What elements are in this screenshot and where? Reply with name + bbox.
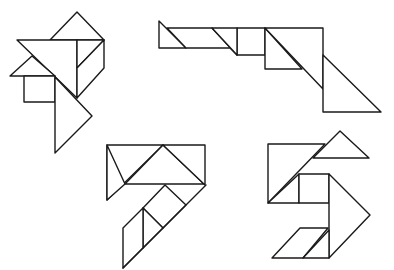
tangram-figure-top-right [159, 21, 381, 112]
tangram-piece-square [299, 174, 329, 203]
tangram-figure-bottom-left [107, 145, 206, 268]
tangram-piece-large-triangle-right [329, 174, 370, 258]
tangram-piece-square [237, 28, 265, 55]
tangram-figure-top-left [10, 12, 104, 153]
tangram-piece-small-triangle-top [50, 12, 104, 40]
tangram-figure-bottom-right [268, 131, 370, 258]
tangram-diagram [0, 0, 394, 270]
tangram-piece-square [24, 76, 55, 102]
tangram-piece-parallelogram [123, 208, 143, 268]
tangram-piece-large-triangle-right [323, 55, 381, 112]
